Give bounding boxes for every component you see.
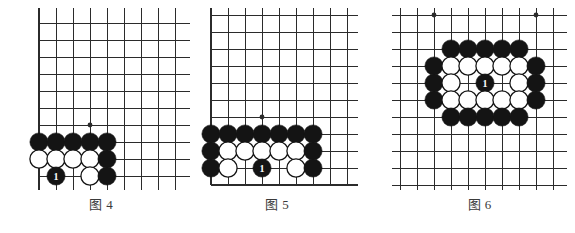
white-stone[interactable] <box>219 142 237 160</box>
black-stone[interactable] <box>425 57 443 75</box>
stone-disc <box>253 125 271 143</box>
black-stone[interactable] <box>510 40 528 58</box>
black-stone[interactable] <box>81 133 99 151</box>
black-stone[interactable] <box>442 40 460 58</box>
figure-caption-6: 图6 <box>392 194 567 213</box>
black-stone[interactable] <box>304 142 322 160</box>
black-stone[interactable] <box>270 125 288 143</box>
black-stone[interactable] <box>493 40 511 58</box>
black-stone[interactable] <box>425 91 443 109</box>
black-stone[interactable] <box>304 125 322 143</box>
black-stone[interactable] <box>510 108 528 126</box>
white-stone[interactable] <box>493 91 511 109</box>
stone-disc <box>459 57 477 75</box>
go-diagram-5: 1图5 <box>196 8 358 220</box>
stone-disc <box>81 167 99 185</box>
stone-disc <box>202 125 220 143</box>
board-grid-svg: 1 <box>12 8 190 190</box>
black-stone[interactable] <box>304 159 322 177</box>
black-stone[interactable] <box>64 133 82 151</box>
white-stone[interactable] <box>493 57 511 75</box>
stone-disc <box>442 57 460 75</box>
black-stone[interactable] <box>459 40 477 58</box>
white-stone[interactable] <box>476 91 494 109</box>
stone-disc <box>219 125 237 143</box>
white-stone[interactable] <box>81 167 99 185</box>
move-number-label: 1 <box>483 78 488 89</box>
stone-disc <box>510 91 528 109</box>
stones-layer: 1 <box>425 40 545 126</box>
white-stone[interactable] <box>287 159 305 177</box>
black-stone[interactable] <box>30 133 48 151</box>
white-stone[interactable] <box>476 57 494 75</box>
black-stone[interactable] <box>442 108 460 126</box>
stone-disc <box>81 133 99 151</box>
white-stone[interactable] <box>442 57 460 75</box>
white-stone[interactable] <box>270 142 288 160</box>
black-stone[interactable] <box>202 125 220 143</box>
black-stone[interactable] <box>253 125 271 143</box>
white-stone[interactable] <box>236 142 254 160</box>
stone-disc <box>202 159 220 177</box>
stone-disc <box>476 40 494 58</box>
black-stone[interactable] <box>98 167 116 185</box>
stone-disc <box>493 40 511 58</box>
black-stone[interactable]: 1 <box>253 159 271 177</box>
black-stone[interactable] <box>476 108 494 126</box>
black-stone[interactable] <box>98 150 116 168</box>
black-stone[interactable] <box>47 133 65 151</box>
stone-disc <box>30 150 48 168</box>
stone-disc <box>459 40 477 58</box>
star-point <box>432 13 437 18</box>
stones-layer: 1 <box>202 125 322 177</box>
white-stone[interactable] <box>64 150 82 168</box>
stone-disc <box>442 91 460 109</box>
go-board-5: 1 <box>196 8 358 190</box>
black-stone[interactable] <box>527 57 545 75</box>
stone-disc <box>98 150 116 168</box>
stone-disc <box>98 167 116 185</box>
figure-caption-4: 图4 <box>12 194 190 213</box>
black-stone[interactable] <box>459 108 477 126</box>
white-stone[interactable] <box>459 91 477 109</box>
white-stone[interactable] <box>510 74 528 92</box>
white-stone[interactable] <box>442 91 460 109</box>
caption-label: 图 <box>89 197 104 212</box>
move-number-label: 1 <box>54 171 59 182</box>
white-stone[interactable] <box>510 57 528 75</box>
white-stone[interactable] <box>30 150 48 168</box>
black-stone[interactable] <box>236 125 254 143</box>
black-stone[interactable] <box>476 40 494 58</box>
black-stone[interactable] <box>425 74 443 92</box>
white-stone[interactable] <box>47 150 65 168</box>
white-stone[interactable] <box>442 74 460 92</box>
black-stone[interactable] <box>527 74 545 92</box>
stone-disc <box>442 40 460 58</box>
white-stone[interactable] <box>287 142 305 160</box>
white-stone[interactable] <box>81 150 99 168</box>
stone-disc <box>270 142 288 160</box>
black-stone[interactable]: 1 <box>47 167 65 185</box>
black-stone[interactable]: 1 <box>476 74 494 92</box>
go-board-4: 1 <box>12 8 190 190</box>
stone-disc <box>219 159 237 177</box>
black-stone[interactable] <box>219 125 237 143</box>
star-point <box>88 123 93 128</box>
white-stone[interactable] <box>459 57 477 75</box>
stone-disc <box>510 57 528 75</box>
board-grid-svg: 1 <box>196 8 358 190</box>
black-stone[interactable] <box>202 142 220 160</box>
stone-disc <box>476 108 494 126</box>
stone-disc <box>476 57 494 75</box>
white-stone[interactable] <box>219 159 237 177</box>
black-stone[interactable] <box>527 91 545 109</box>
black-stone[interactable] <box>98 133 116 151</box>
move-number-label: 1 <box>260 163 265 174</box>
white-stone[interactable] <box>510 91 528 109</box>
black-stone[interactable] <box>287 125 305 143</box>
white-stone[interactable] <box>253 142 271 160</box>
go-diagram-6: 1图6 <box>392 8 567 220</box>
black-stone[interactable] <box>493 108 511 126</box>
stone-disc <box>287 159 305 177</box>
black-stone[interactable] <box>202 159 220 177</box>
